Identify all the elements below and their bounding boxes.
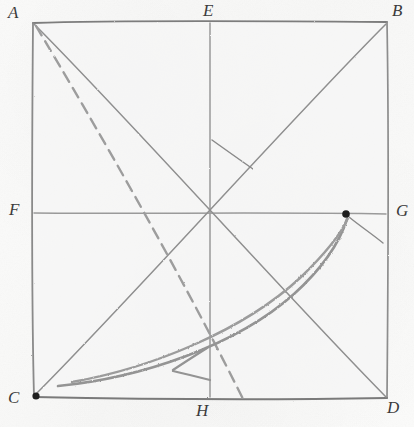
vertex-label-C: C (8, 389, 19, 406)
vertex-label-G: G (396, 202, 408, 219)
geometry-figure (0, 0, 414, 427)
diagram-canvas: A E B F G C H D (0, 0, 414, 427)
vertex-label-H: H (196, 402, 208, 419)
median-horizontal-FG (34, 213, 386, 214)
dot-on-median-FG (342, 210, 350, 218)
vertex-label-B: B (392, 2, 402, 19)
vertex-label-E: E (203, 2, 213, 19)
vertex-label-F: F (9, 201, 19, 218)
vertex-label-D: D (387, 399, 399, 416)
dot-at-vertex-C (32, 392, 39, 399)
vertex-label-A: A (8, 4, 18, 21)
